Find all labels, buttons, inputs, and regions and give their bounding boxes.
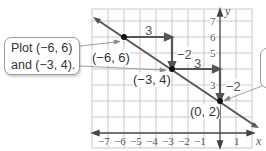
point-label-0-2: (0, 2) xyxy=(190,104,220,119)
callout-line-2: and (−3, 4). xyxy=(11,57,79,74)
rise-label-1: −2 xyxy=(177,47,192,62)
point-label-neg3-4: (−3, 4) xyxy=(133,72,171,87)
right-callout-box xyxy=(260,48,266,88)
callout-line-1: Plot (−6, 6) xyxy=(11,40,79,57)
point-label-neg6-6: (−6, 6) xyxy=(92,50,130,65)
plot-instruction-callout: Plot (−6, 6) and (−3, 4). xyxy=(4,37,80,75)
run-label-1: 3 xyxy=(145,23,152,38)
rise-label-2: −2 xyxy=(226,79,241,94)
run-label-2: 3 xyxy=(194,56,201,71)
